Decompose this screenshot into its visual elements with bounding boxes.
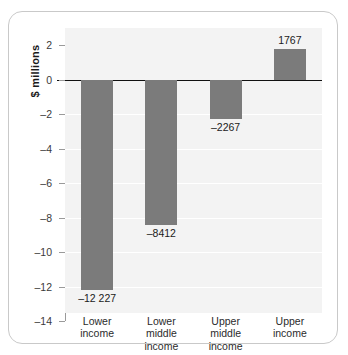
x-category-label-line: income [61,327,133,339]
x-category-label-line: income [254,327,326,339]
bar-value-label: 1767 [250,34,330,46]
y-tick-label: –8 [40,212,52,224]
x-category-label: Uppermiddleincome [190,315,262,352]
x-category-label-line: middle [125,327,197,339]
y-tick-label: –6 [40,177,52,189]
y-tick-mark [59,218,65,219]
x-category-label-line: Lower [61,315,133,327]
bar-value-label: –8412 [121,227,201,239]
x-category-label-line: Lower [125,315,197,327]
y-tick-mark [59,287,65,288]
x-category-label-line: Upper [190,315,262,327]
y-tick-label: –12 [34,281,52,293]
plot-wrapper: –12 227–8412–22671767 20–2–4–6–8–10–12–1… [57,20,322,313]
y-tick-label: 0 [46,74,52,86]
x-axis-category-labels: LowerincomeLowermiddleincomeUppermiddlei… [65,315,322,355]
y-tick-label: –4 [40,143,52,155]
y-tick-mark [59,252,65,253]
y-tick-mark [59,114,65,115]
x-category-label: Lowerincome [61,315,133,340]
x-category-label-line: income [125,340,197,352]
bar [145,80,177,225]
bar [81,80,113,291]
x-category-label-line: middle [190,327,262,339]
bar [210,80,242,119]
bar [274,49,306,79]
x-category-label: Lowermiddleincome [125,315,197,352]
x-category-label-line: Upper [254,315,326,327]
x-category-label: Upperincome [254,315,326,340]
y-tick-mark [59,183,65,184]
y-tick-label: 2 [46,39,52,51]
y-tick-label: –10 [34,246,52,258]
y-tick-mark [59,149,65,150]
bar-value-label: –12 227 [57,292,137,304]
y-tick-label: –2 [40,108,52,120]
y-axis-title: $ millions [27,26,43,116]
y-tick-label: –14 [34,315,52,327]
y-tick-mark [59,45,65,46]
y-tick-mark [59,80,65,81]
bar-value-label: –2267 [186,121,266,133]
chart-card: $ millions –12 227–8412–22671767 20–2–4–… [8,11,338,344]
y-axis-title-text: $ millions [29,45,41,98]
plot-area: –12 227–8412–22671767 [65,28,322,313]
x-category-label-line: income [190,340,262,352]
